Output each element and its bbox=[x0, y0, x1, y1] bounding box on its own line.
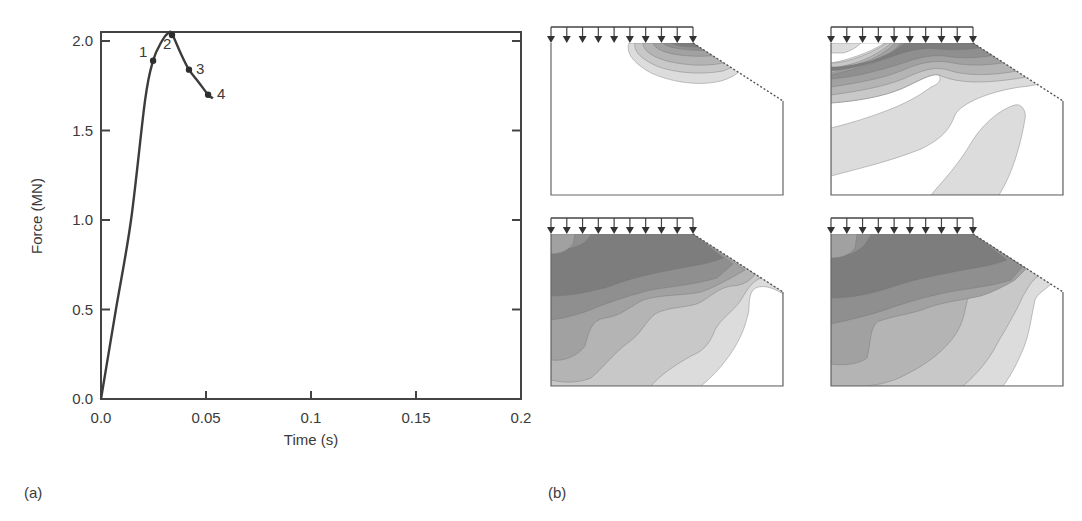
curve-point-marker bbox=[186, 66, 192, 72]
load-arrow-icon bbox=[626, 36, 634, 43]
load-arrow-icon bbox=[689, 36, 697, 43]
contour-panels bbox=[547, 27, 1063, 386]
load-arrow-icon bbox=[547, 36, 555, 43]
load-arrow-icon bbox=[563, 227, 571, 234]
load-arrow-icon bbox=[594, 227, 602, 234]
load-arrow-icon bbox=[642, 227, 650, 234]
curve-point-label: 1 bbox=[139, 43, 147, 60]
load-arrow-icon bbox=[922, 227, 930, 234]
x-tick-label: 0.05 bbox=[191, 409, 220, 426]
load-arrow-icon bbox=[937, 36, 945, 43]
contour-bands bbox=[831, 43, 1063, 195]
load-arrow-icon bbox=[906, 227, 914, 234]
load-arrow-icon bbox=[579, 36, 587, 43]
load-arrow-icon bbox=[874, 36, 882, 43]
curve-point-label: 4 bbox=[217, 85, 225, 102]
x-tick-label: 0.0 bbox=[91, 409, 112, 426]
y-tick-label: 0.0 bbox=[72, 390, 93, 407]
load-arrow-icon bbox=[890, 227, 898, 234]
x-tick-label: 0.2 bbox=[511, 409, 532, 426]
load-arrow-icon bbox=[859, 36, 867, 43]
load-arrow-icon bbox=[563, 36, 571, 43]
uniform-load bbox=[547, 218, 697, 234]
contour-bands bbox=[551, 234, 783, 386]
load-arrow-icon bbox=[827, 36, 835, 43]
curve-point-label: 2 bbox=[163, 35, 171, 52]
load-arrow-icon bbox=[579, 227, 587, 234]
curve-point-marker bbox=[205, 92, 211, 98]
figure: 0.00.050.10.150.20.00.51.01.52.0 Time (s… bbox=[0, 0, 1082, 521]
uniform-load bbox=[827, 27, 977, 43]
curve-point-label: 3 bbox=[196, 60, 204, 77]
load-arrow-icon bbox=[922, 36, 930, 43]
force-curve bbox=[101, 32, 213, 399]
load-arrow-icon bbox=[673, 227, 681, 234]
contour-bands bbox=[831, 234, 1063, 386]
y-tick-label: 1.0 bbox=[72, 211, 93, 228]
plot-frame bbox=[101, 32, 521, 399]
load-arrow-icon bbox=[843, 36, 851, 43]
x-tick-label: 0.1 bbox=[301, 409, 322, 426]
load-arrow-icon bbox=[594, 36, 602, 43]
load-arrow-icon bbox=[843, 227, 851, 234]
load-arrow-icon bbox=[953, 36, 961, 43]
load-arrow-icon bbox=[610, 36, 618, 43]
load-arrow-icon bbox=[827, 227, 835, 234]
contour-panel-4 bbox=[827, 218, 1063, 386]
load-arrow-icon bbox=[953, 227, 961, 234]
load-arrow-icon bbox=[657, 36, 665, 43]
load-arrow-icon bbox=[689, 227, 697, 234]
panel-a-label: (a) bbox=[24, 484, 42, 501]
contour-panel-3 bbox=[547, 218, 783, 386]
y-tick-label: 0.5 bbox=[72, 301, 93, 318]
load-arrow-icon bbox=[969, 36, 977, 43]
y-tick-label: 1.5 bbox=[72, 122, 93, 139]
load-arrow-icon bbox=[610, 227, 618, 234]
uniform-load bbox=[827, 218, 977, 234]
force-time-chart: 0.00.050.10.150.20.00.51.01.52.0 Time (s… bbox=[0, 0, 1082, 521]
load-arrow-icon bbox=[937, 227, 945, 234]
load-arrow-icon bbox=[969, 227, 977, 234]
load-arrow-icon bbox=[626, 227, 634, 234]
load-arrow-icon bbox=[673, 36, 681, 43]
panel-b-label: (b) bbox=[548, 484, 566, 501]
load-arrow-icon bbox=[859, 227, 867, 234]
load-arrow-icon bbox=[642, 36, 650, 43]
load-arrow-icon bbox=[657, 227, 665, 234]
load-arrow-icon bbox=[890, 36, 898, 43]
uniform-load bbox=[547, 27, 697, 43]
axis-ticks bbox=[101, 41, 521, 399]
load-arrow-icon bbox=[547, 227, 555, 234]
axis-tick-labels: 0.00.050.10.150.20.00.51.01.52.0 bbox=[72, 32, 531, 426]
contour-panel-1 bbox=[547, 27, 783, 195]
y-tick-label: 2.0 bbox=[72, 32, 93, 49]
contour-panel-2 bbox=[827, 27, 1063, 195]
load-arrow-icon bbox=[906, 36, 914, 43]
load-arrow-icon bbox=[874, 227, 882, 234]
y-axis-label: Force (MN) bbox=[28, 178, 45, 254]
curve-point-marker bbox=[150, 57, 156, 63]
x-tick-label: 0.15 bbox=[401, 409, 430, 426]
x-axis-label: Time (s) bbox=[284, 431, 338, 448]
